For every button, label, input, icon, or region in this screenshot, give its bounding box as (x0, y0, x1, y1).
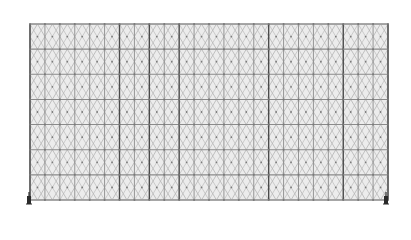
brace-node (96, 36, 98, 38)
joint-node (357, 23, 359, 25)
joint-node (193, 199, 195, 201)
brace-node (275, 136, 277, 138)
joint-node (193, 124, 195, 126)
joint-node (283, 149, 285, 151)
joint-node (372, 48, 374, 50)
brace-node (290, 36, 292, 38)
brace-node (216, 187, 218, 189)
joint-node (208, 149, 210, 151)
joint-node (357, 124, 359, 126)
brace-node (171, 36, 173, 38)
brace-node (216, 61, 218, 63)
joint-node (223, 98, 225, 100)
joint-node (59, 98, 61, 100)
joint-node (104, 48, 106, 50)
brace-node (350, 86, 352, 88)
joint-node (253, 98, 255, 100)
joint-node (44, 124, 46, 126)
joint-node (283, 124, 285, 126)
brace-node (37, 36, 39, 38)
brace-node (380, 61, 382, 63)
brace-node (380, 161, 382, 163)
joint-node (44, 149, 46, 151)
brace-node (260, 111, 262, 113)
joint-node (327, 48, 329, 50)
support-block (384, 196, 388, 204)
joint-node (178, 73, 180, 75)
joint-node (312, 199, 314, 201)
joint-node (387, 149, 389, 151)
joint-node (74, 124, 76, 126)
brace-node (37, 86, 39, 88)
brace-node (141, 161, 143, 163)
joint-node (104, 174, 106, 176)
joint-node (74, 149, 76, 151)
joint-node (59, 199, 61, 201)
brace-node (186, 136, 188, 138)
joint-node (148, 23, 150, 25)
brace-node (230, 187, 232, 189)
brace-node (320, 86, 322, 88)
joint-node (312, 23, 314, 25)
joint-node (163, 199, 165, 201)
brace-node (305, 187, 307, 189)
joint-node (104, 124, 106, 126)
brace-node (66, 187, 68, 189)
joint-node (357, 174, 359, 176)
brace-node (335, 86, 337, 88)
brace-node (320, 187, 322, 189)
joint-node (89, 98, 91, 100)
joint-node (312, 174, 314, 176)
joint-node (178, 174, 180, 176)
joint-node (268, 73, 270, 75)
brace-node (245, 187, 247, 189)
joint-node (342, 149, 344, 151)
joint-node (163, 174, 165, 176)
brace-node (201, 61, 203, 63)
joint-node (372, 199, 374, 201)
joint-node (59, 149, 61, 151)
joint-node (357, 73, 359, 75)
brace-node (66, 86, 68, 88)
brace-node (335, 161, 337, 163)
joint-node (238, 124, 240, 126)
joint-node (59, 73, 61, 75)
brace-node (380, 36, 382, 38)
brace-node (51, 111, 53, 113)
brace-node (126, 86, 128, 88)
brace-node (96, 61, 98, 63)
joint-node (178, 199, 180, 201)
joint-node (133, 124, 135, 126)
joint-node (238, 199, 240, 201)
joint-node (74, 73, 76, 75)
joint-node (208, 124, 210, 126)
joint-node (29, 23, 31, 25)
brace-node (320, 111, 322, 113)
brace-node (230, 61, 232, 63)
brace-node (216, 161, 218, 163)
brace-node (230, 111, 232, 113)
joint-node (148, 199, 150, 201)
joint-node (387, 174, 389, 176)
joint-node (283, 199, 285, 201)
brace-node (305, 111, 307, 113)
joint-node (238, 73, 240, 75)
brace-node (81, 111, 83, 113)
brace-node (216, 111, 218, 113)
joint-node (208, 98, 210, 100)
brace-node (111, 161, 113, 163)
brace-node (126, 36, 128, 38)
joint-node (238, 174, 240, 176)
joint-node (178, 23, 180, 25)
brace-node (51, 136, 53, 138)
joint-node (372, 149, 374, 151)
brace-node (230, 36, 232, 38)
brace-node (81, 161, 83, 163)
joint-node (387, 124, 389, 126)
joint-node (268, 124, 270, 126)
joint-node (312, 124, 314, 126)
joint-node (268, 199, 270, 201)
brace-node (111, 86, 113, 88)
joint-node (253, 73, 255, 75)
joint-node (298, 98, 300, 100)
